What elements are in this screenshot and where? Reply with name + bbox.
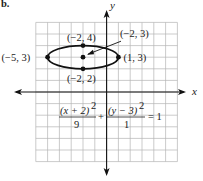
y-axis-label: y xyxy=(109,0,115,11)
point-marker xyxy=(45,55,50,60)
point-label: (1, 3) xyxy=(123,52,146,64)
x-axis-label: x xyxy=(191,85,197,97)
point-marker xyxy=(81,43,86,48)
part-label: b. xyxy=(1,0,10,9)
equation-equals: = 1 xyxy=(148,111,162,122)
point-label: (−2, 4) xyxy=(67,32,96,44)
point-label: (−2, 2) xyxy=(67,73,96,85)
equation-plus: + xyxy=(98,111,104,122)
point-marker xyxy=(116,55,121,60)
ellipse-equation: (x + 2) 2 9 + (y − 3) 2 1 = 1 xyxy=(56,100,168,131)
ellipse-graph: (−5, 3)(1, 3)(−2, 4)(−2, 2)(−2, 3) b. y … xyxy=(0,0,203,181)
point-marker xyxy=(81,66,86,71)
equation-term1-exponent: 2 xyxy=(91,100,96,111)
labeled-points: (−5, 3)(1, 3)(−2, 4)(−2, 2)(−2, 3) xyxy=(2,28,150,85)
point-label: (−2, 3) xyxy=(120,28,149,40)
point-label: (−5, 3) xyxy=(2,52,31,64)
axes xyxy=(14,10,186,176)
equation-term1-numerator: (x + 2) xyxy=(60,105,90,117)
equation-term2-numerator: (y − 3) xyxy=(108,105,138,117)
equation-term1-denominator: 9 xyxy=(74,119,79,130)
point-marker xyxy=(81,55,86,60)
equation-term2-denominator: 1 xyxy=(124,119,129,130)
pointer-arrowhead-icon xyxy=(87,50,94,55)
equation-term2-exponent: 2 xyxy=(139,100,144,111)
